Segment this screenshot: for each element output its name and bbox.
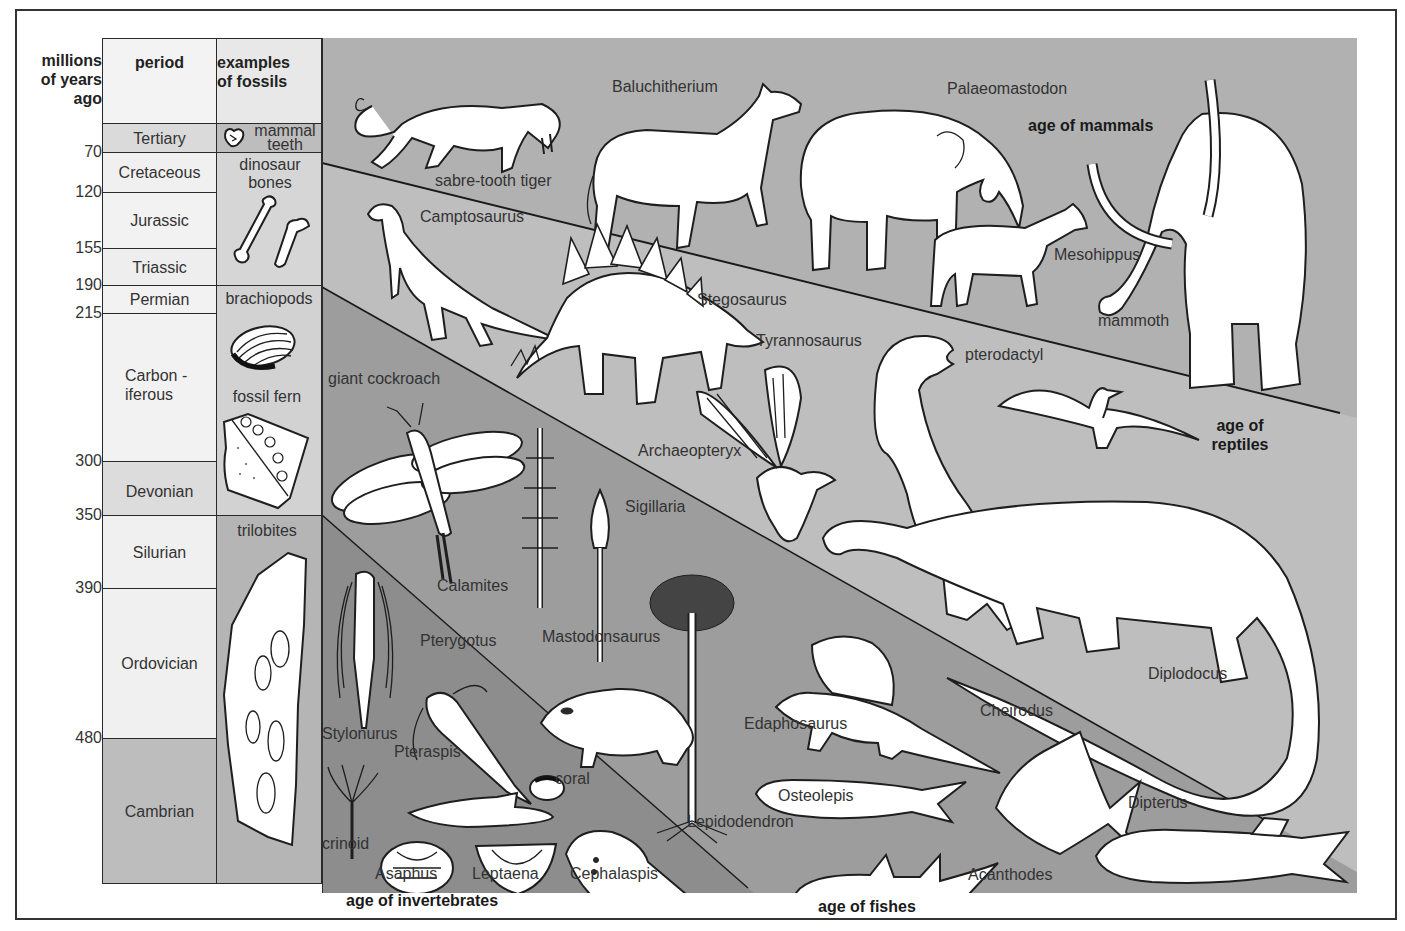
period-cretaceous: Cretaceous <box>102 152 217 193</box>
period-label: Silurian <box>133 543 186 562</box>
label-leptaena: Leptaena <box>472 865 539 883</box>
period-label: Jurassic <box>130 211 189 230</box>
fossils-column-header: examples of fossils <box>216 38 322 124</box>
age-of-reptiles-line-1: age of <box>1200 416 1280 435</box>
trilobite-slab-icon <box>218 545 314 865</box>
age-of-invertebrates-label: age of invertebrates <box>346 891 498 910</box>
label-stylonurus: Stylonurus <box>322 725 398 743</box>
mya-header-line-2: of years <box>22 70 102 89</box>
period-label: Cambrian <box>125 802 194 821</box>
label-baluchitherium: Baluchitherium <box>612 78 718 96</box>
period-cambrian: Cambrian <box>102 738 217 884</box>
period-ordovician: Ordovician <box>102 588 217 739</box>
mya-tick-120: 120 <box>62 183 102 201</box>
label-stegosaurus: Stegosaurus <box>697 291 787 309</box>
age-of-reptiles-label: age of reptiles <box>1200 416 1280 454</box>
label-lepidodendron: Lepidodendron <box>687 813 794 831</box>
age-of-reptiles-line-2: reptiles <box>1200 435 1280 454</box>
mya-tick-300: 300 <box>62 452 102 470</box>
period-label: Permian <box>130 290 190 309</box>
period-label: iferous <box>125 385 173 404</box>
fossil-label-line: dinosaur <box>220 156 320 174</box>
label-calamites: Calamites <box>437 577 508 595</box>
label-giant-cockroach: giant cockroach <box>328 370 440 388</box>
fossil-label-brachiopods: brachiopods <box>217 290 321 308</box>
label-camptosaurus: Camptosaurus <box>420 208 524 226</box>
fossil-label-dinosaur-bones: dinosaur bones <box>220 156 320 192</box>
label-pteraspis: Pteraspis <box>394 743 461 761</box>
period-permian: Permian <box>102 285 217 314</box>
period-silurian: Silurian <box>102 515 217 589</box>
fossil-label-line: bones <box>220 174 320 192</box>
giant-cockroach-illustration <box>327 393 527 593</box>
mastodonsaurus-illustration <box>537 683 702 773</box>
label-palaeomastodon: Palaeomastodon <box>947 80 1067 98</box>
period-devonian: Devonian <box>102 461 217 516</box>
mya-header-line-1: millions <box>22 51 102 70</box>
period-header-text: period <box>135 53 184 72</box>
label-asaphus: Asaphus <box>375 865 437 883</box>
label-tyrannosaurus: Tyrannosaurus <box>756 332 862 350</box>
mya-header-line-3: ago <box>22 89 102 108</box>
label-coral: coral <box>555 770 590 788</box>
label-cheirodus: Cheirodus <box>980 702 1053 720</box>
period-label: Triassic <box>132 258 187 277</box>
label-archaeopteryx: Archaeopteryx <box>638 442 741 460</box>
period-tertiary: Tertiary <box>102 123 217 153</box>
age-of-fishes-label: age of fishes <box>818 897 916 916</box>
pterodactyl-illustration <box>997 368 1207 448</box>
label-sabre-tooth-tiger: sabre-tooth tiger <box>435 172 552 190</box>
fossil-label-trilobites: trilobites <box>222 522 312 540</box>
illustration-panel: Baluchitherium Palaeomastodon age of mam… <box>322 38 1357 893</box>
sabre-tooth-tiger-illustration <box>342 76 572 176</box>
period-label: Ordovician <box>121 654 197 673</box>
label-mastodonsaurus: Mastodonsaurus <box>542 628 660 646</box>
period-label: Tertiary <box>133 129 185 148</box>
fossil-label-mammal-teeth: mammal teeth <box>245 124 325 152</box>
bone-icon <box>225 192 315 272</box>
fossils-header-line-1: examples <box>217 53 290 72</box>
label-mammoth: mammoth <box>1098 312 1169 330</box>
label-acanthodes: Acanthodes <box>968 866 1053 884</box>
mya-tick-350: 350 <box>62 506 102 524</box>
label-pterygotus: Pterygotus <box>420 632 496 650</box>
label-pterodactyl: pterodactyl <box>965 346 1043 364</box>
fossil-label-line: teeth <box>245 138 325 152</box>
brachiopod-shell-icon <box>225 322 300 374</box>
period-label: Carbon - <box>125 366 187 385</box>
period-jurassic: Jurassic <box>102 192 217 249</box>
edaphosaurus-illustration <box>772 633 1002 783</box>
mya-tick-190: 190 <box>62 276 102 294</box>
label-crinoid: crinoid <box>322 835 369 853</box>
label-mesohippus: Mesohippus <box>1054 246 1140 264</box>
period-label: Cretaceous <box>119 163 201 182</box>
stylonurus-illustration <box>334 568 394 738</box>
label-diplodocus: Diplodocus <box>1148 665 1227 683</box>
mya-tick-480: 480 <box>62 729 102 747</box>
label-edaphosaurus: Edaphosaurus <box>744 715 847 733</box>
label-sigillaria: Sigillaria <box>625 498 685 516</box>
calamites-illustration <box>522 428 562 618</box>
mya-tick-155: 155 <box>62 239 102 257</box>
mya-tick-215: 215 <box>62 304 102 322</box>
label-dipterus: Dipterus <box>1128 794 1188 812</box>
period-triassic: Triassic <box>102 248 217 286</box>
fossils-header-line-2: of fossils <box>217 72 287 91</box>
age-of-mammals-label: age of mammals <box>1028 116 1153 135</box>
label-cephalaspis: Cephalaspis <box>570 865 658 883</box>
period-label: Devonian <box>126 482 194 501</box>
fossil-fern-icon <box>218 408 314 512</box>
mya-tick-70: 70 <box>62 143 102 161</box>
fossil-label-fossil-fern: fossil fern <box>222 388 312 406</box>
mya-tick-390: 390 <box>62 579 102 597</box>
label-osteolepis: Osteolepis <box>778 787 854 805</box>
period-carboniferous: Carbon - iferous <box>102 313 217 462</box>
mya-column-header: millions of years ago <box>22 51 102 108</box>
period-column-header: period <box>102 38 217 124</box>
dipterus-illustration <box>1092 816 1352 893</box>
